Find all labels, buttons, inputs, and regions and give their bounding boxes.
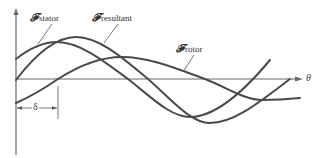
theta-axis-label: θ <box>306 72 311 83</box>
resultant-subscript: resultant <box>101 13 132 23</box>
mmf-symbol: 𝓕 <box>92 11 100 24</box>
stator-subscript: stator <box>39 13 59 23</box>
delta-left-arrowhead-icon <box>17 106 22 109</box>
theta-axis-arrowhead-icon <box>295 77 303 82</box>
stator-leader-line <box>38 24 52 44</box>
resultant-label: 𝓕resultant <box>92 12 132 23</box>
delta-right-arrowhead-icon <box>52 106 57 109</box>
vertical-axis-arrowhead-icon <box>14 8 19 15</box>
mmf-symbol: 𝓕 <box>176 42 184 55</box>
delta-angle-label: δ <box>32 101 39 112</box>
mmf-symbol: 𝓕 <box>30 11 38 24</box>
mmf-phasor-diagram <box>0 0 320 158</box>
rotor-subscript: rotor <box>185 44 203 54</box>
rotor-curve <box>16 57 300 103</box>
rotor-leader-line <box>183 55 194 72</box>
resultant-leader-line <box>104 24 118 43</box>
rotor-label: 𝓕rotor <box>176 43 203 54</box>
stator-label: 𝓕stator <box>30 12 59 23</box>
